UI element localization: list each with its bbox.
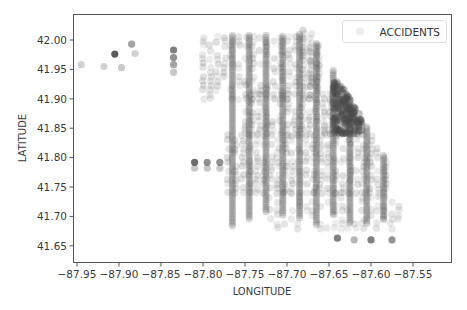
y-tick-label: 41.75 [37, 181, 67, 193]
legend-entry-accidents: ACCIDENTS [380, 26, 441, 38]
x-tick-label: −87.75 [226, 268, 265, 280]
x-tick-label: −87.85 [142, 268, 181, 280]
x-tick-label: −87.60 [352, 268, 391, 280]
x-axis-ticks: −87.95−87.90−87.85−87.80−87.75−87.70−87.… [58, 263, 433, 281]
y-axis-ticks: 41.6541.7041.7541.8041.8541.9041.9542.00 [37, 34, 74, 252]
y-tick-label: 41.80 [37, 151, 67, 163]
y-tick-label: 41.70 [37, 210, 67, 222]
legend: ACCIDENTS [343, 21, 447, 43]
y-tick-label: 41.90 [37, 93, 67, 105]
x-tick-label: −87.95 [58, 268, 97, 280]
x-tick-label: −87.70 [268, 268, 307, 280]
y-axis-label: LATITUDE [17, 114, 28, 162]
y-tick-label: 42.00 [37, 34, 67, 46]
x-tick-label: −87.55 [394, 268, 433, 280]
y-tick-label: 41.65 [37, 240, 67, 252]
scatter-points [78, 27, 403, 244]
scatter-chart: −87.95−87.90−87.85−87.80−87.75−87.70−87.… [0, 0, 467, 310]
y-tick-label: 41.85 [37, 122, 67, 134]
y-tick-label: 41.95 [37, 63, 67, 75]
x-tick-label: −87.65 [310, 268, 349, 280]
x-tick-label: −87.90 [100, 268, 139, 280]
legend-marker-icon [356, 28, 364, 36]
x-axis-label: LONGITUDE [233, 286, 292, 297]
x-tick-label: −87.80 [184, 268, 223, 280]
